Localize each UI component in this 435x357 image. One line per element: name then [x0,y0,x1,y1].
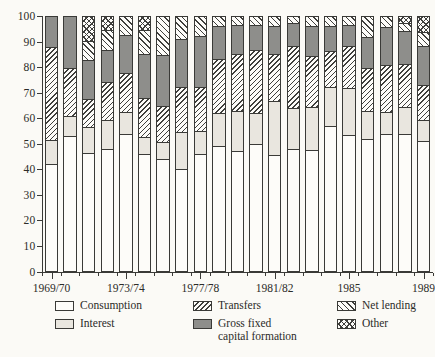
y-axis-tick [37,42,42,43]
x-axis-minor-tick [433,273,434,276]
other-swatch-icon [337,319,356,329]
x-axis-tick-label: 1969/70 [33,282,71,294]
y-axis-tick [37,246,42,247]
stacked-bar [268,16,281,272]
segment-diagdown [306,17,317,26]
gross-fixed-line1: Gross fixed [218,317,271,329]
segment-lightgray [381,112,392,134]
segment-diagdown [176,17,187,39]
segment-diagdown [381,17,392,27]
stacked-bar [138,16,151,272]
x-axis-major-tick [200,273,201,279]
segment-diagdown [120,17,131,35]
stacked-bar [82,16,95,272]
legend-label-gross-fixed: Gross fixed capital formation [218,317,297,343]
segment-diagup [139,98,150,137]
y-axis-tick [37,67,42,68]
x-axis-minor-tick [210,273,211,276]
interest-swatch-icon [55,319,74,329]
x-axis-minor-tick [284,273,285,276]
segment-lightgray [418,120,429,142]
y-axis-tick [37,195,42,196]
y-axis-tick-label: 30 [10,190,36,200]
stacked-bar [231,16,244,272]
segment-lightgray [232,111,243,152]
consumption-swatch-icon [55,301,74,311]
segment-cross [83,17,94,41]
segment-darkgray [102,50,113,82]
legend-column-3: Net lending Other [337,299,416,335]
segment-lightgray [250,113,261,143]
segment-diagup [195,87,206,131]
segment-darkgray [306,26,317,56]
x-axis-minor-tick [154,273,155,276]
y-axis-tick-label: 20 [10,215,36,225]
segment-lightgray [195,131,206,154]
y-axis-tick [37,16,42,17]
segment-darkgray [46,17,57,47]
segment-darkgray [213,26,224,59]
segment-cross [139,17,150,30]
segment-diagup [46,47,57,140]
segment-darkgray [139,54,150,98]
stacked-bar [305,16,318,272]
segment-plain [399,134,410,271]
segment-lightgray [120,112,131,134]
segment-plain [46,164,57,270]
segment-lightgray [83,127,94,152]
stacked-bar [361,16,374,272]
segment-diagup [343,46,354,88]
x-axis-minor-tick [61,273,62,276]
transfers-swatch-icon [193,301,212,311]
segment-lightgray [306,107,317,150]
segment-darkgray [418,46,429,85]
legend-label-transfers: Transfers [218,299,261,312]
segment-plain [362,139,373,271]
x-axis-minor-tick [191,273,192,276]
y-axis-tick [37,144,42,145]
segment-plain [64,136,75,270]
segment-diagup [64,68,75,116]
legend-label-other: Other [362,317,388,330]
segment-plain [102,149,113,271]
segment-diagdown [157,17,168,55]
segment-plain [269,155,280,270]
stacked-bar [45,16,58,272]
segment-diagup [250,50,261,113]
x-axis-major-tick [275,273,276,279]
stacked-bar [324,16,337,272]
x-axis-major-tick [52,273,53,279]
x-axis-minor-tick [321,273,322,276]
x-axis-major-tick [424,273,425,279]
segment-diagup [120,73,131,112]
segment-darkgray [195,36,206,87]
x-axis-minor-tick [377,273,378,276]
stacked-bar [249,16,262,272]
segment-darkgray [250,25,261,50]
x-axis [42,272,434,273]
segment-darkgray [381,27,392,65]
segment-darkgray [325,26,336,51]
y-axis-tick [37,272,42,273]
x-axis-minor-tick [265,273,266,276]
segment-diagdown [250,17,261,25]
y-axis-tick-label: 10 [10,241,36,251]
stacked-bar [417,16,430,272]
segment-lightgray [46,140,57,164]
segment-darkgray [232,25,243,54]
segment-lightgray [139,137,150,153]
y-axis-tick-label: 60 [10,113,36,123]
segment-lightgray [64,116,75,136]
segment-diagdown [102,30,113,50]
segment-lightgray [213,113,224,146]
segment-diagdown [195,17,206,36]
x-axis-tick-label: 1985 [338,282,361,294]
segment-cross [102,17,113,30]
stacked-bar [212,16,225,272]
segment-diagup [269,54,280,101]
segment-plain [195,154,206,271]
y-axis-tick-label: 80 [10,62,36,72]
stacked-bar [175,16,188,272]
gross-fixed-line2: capital formation [218,330,297,342]
segment-plain [213,146,224,270]
